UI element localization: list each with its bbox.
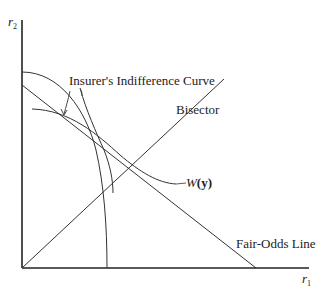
w-y-leader bbox=[176, 183, 186, 184]
x-axis-label-sub: 1 bbox=[307, 279, 311, 288]
w-y-curve bbox=[32, 109, 176, 184]
insurer-curve-label: Insurer's Indifference Curve bbox=[69, 74, 215, 87]
y-axis-label-sub: 2 bbox=[13, 22, 17, 31]
bisector-label: Bisector bbox=[176, 103, 219, 116]
arrow-head-icon bbox=[61, 109, 67, 115]
w-y-label-arg: (y) bbox=[197, 175, 212, 190]
insurer-indifference-curve-inner bbox=[80, 88, 113, 193]
w-y-label-prefix: W bbox=[186, 175, 197, 190]
fair-odds-line bbox=[22, 85, 256, 268]
w-y-label: W(y) bbox=[186, 176, 212, 189]
insurer-indifference-curve-outer bbox=[22, 72, 107, 268]
fair-odds-label: Fair-Odds Line bbox=[236, 237, 316, 250]
x-axis-label: r1 bbox=[302, 272, 311, 288]
y-axis-label: r2 bbox=[8, 15, 17, 31]
